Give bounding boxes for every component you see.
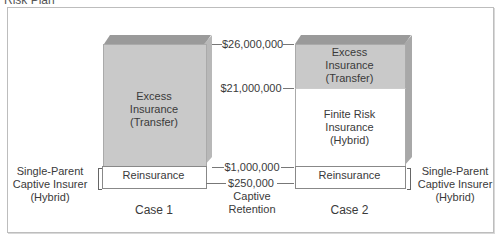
case1-retention-block [102, 184, 207, 189]
case2-label: Case 2 [295, 204, 404, 217]
left-brace [98, 168, 102, 190]
level-1m: $1,000,000 [224, 161, 280, 174]
case2-box-top [295, 35, 411, 44]
right-captive-label: Single-Parent Captive Insurer (Hybrid) [410, 165, 498, 204]
case1-excess-label: Excess Insurance (Transfer) [103, 90, 205, 129]
line-26m-right [283, 44, 294, 45]
case1-reinsurance-label: Reinsurance [102, 169, 205, 182]
line-26m-left [212, 44, 222, 45]
level-21m: $21,000,000 [220, 82, 282, 95]
level-26m: $26,000,000 [222, 38, 282, 51]
case1-label: Case 1 [103, 204, 205, 217]
line-1m-right [281, 167, 294, 168]
case2-reinsurance-label: Reinsurance [295, 169, 404, 182]
line-250k-right [277, 183, 294, 184]
captive-retention-label: Captive Retention [222, 190, 282, 216]
line-1m-left [212, 167, 224, 168]
case2-finite-label: Finite Risk Insurance (Hybrid) [295, 108, 404, 147]
case2-retention-block [295, 184, 406, 189]
line-250k-left [206, 183, 226, 184]
case1-box-top [104, 35, 211, 44]
figure-title: Risk Plan [4, 0, 55, 7]
case2-excess-label: Excess Insurance (Transfer) [295, 46, 404, 85]
left-captive-label: Single-Parent Captive Insurer (Hybrid) [4, 165, 96, 204]
level-250k: $250,000 [225, 177, 277, 190]
line-21m-right [283, 88, 294, 89]
